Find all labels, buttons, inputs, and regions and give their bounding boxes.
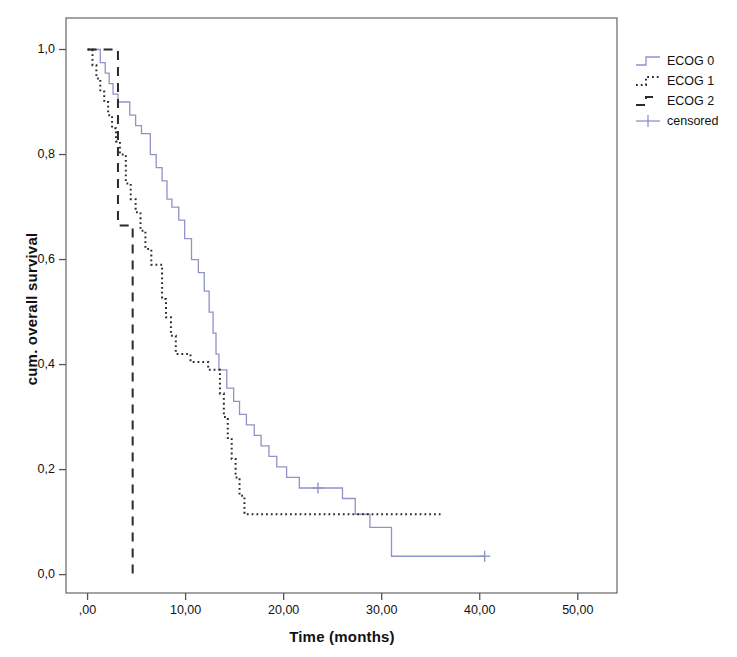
x-tick-label: 10,00 [154,603,218,617]
plot-frame [66,18,617,593]
legend-item-censored[interactable]: censored [634,112,737,130]
censored-markers [312,482,490,561]
x-tick-label: ,00 [56,603,120,617]
legend-label: ECOG 0 [667,54,714,68]
y-tick-label: 0,0 [9,567,55,581]
step-dotted-icon [634,73,664,89]
x-tick-label: 30,00 [350,603,414,617]
x-tick-label: 20,00 [252,603,316,617]
step-dashed-icon [634,93,664,109]
x-axis-title-container: Time (months) [66,628,618,646]
survival-curves [88,50,485,575]
legend-item-ecog-0[interactable]: ECOG 0 [634,52,737,70]
y-tick-label: 1,0 [9,42,55,56]
y-tick-label: 0,6 [9,252,55,266]
legend-label: ECOG 2 [667,94,714,108]
x-tick-label: 40,00 [448,603,512,617]
step-solid-icon [634,53,664,69]
axis-ticks [59,50,578,600]
chart-legend: ECOG 0ECOG 1ECOG 2censored [634,52,737,132]
y-axis-title-container: cum. overall survival [23,149,41,469]
legend-item-ecog-2[interactable]: ECOG 2 [634,92,737,110]
y-tick-label: 0,8 [9,147,55,161]
legend-label: ECOG 1 [667,74,714,88]
curve-ecog-2 [88,50,133,575]
censored-marker [479,551,490,562]
curve-ecog-1 [88,50,441,515]
plus-marker-icon [634,113,664,129]
x-axis-title: Time (months) [289,628,395,645]
curve-ecog-0 [88,50,485,557]
y-tick-label: 0,4 [9,357,55,371]
y-tick-label: 0,2 [9,462,55,476]
survival-chart-figure: cum. overall survival Time (months) 0,00… [0,0,737,657]
censored-marker [312,482,323,493]
plot-canvas [0,0,737,657]
legend-item-ecog-1[interactable]: ECOG 1 [634,72,737,90]
legend-label: censored [667,114,718,128]
x-tick-label: 50,00 [546,603,610,617]
